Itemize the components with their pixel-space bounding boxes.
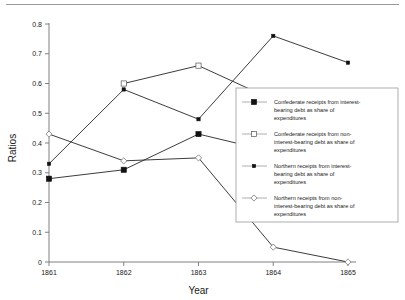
x-tick-label: 1864 — [265, 269, 281, 276]
y-tick-label: 0.7 — [32, 50, 42, 57]
marker-open-diamond — [121, 158, 127, 164]
marker-open-square — [196, 63, 201, 68]
marker-filled-square — [121, 167, 126, 172]
marker-small-filled-square — [346, 61, 349, 64]
y-tick-label: 0.8 — [32, 21, 42, 28]
line-chart: 0.80.70.60.50.40.30.20.10 18611862186318… — [0, 0, 405, 300]
y-tick-label: 0.6 — [32, 80, 42, 87]
y-tick-label: 0.1 — [32, 229, 42, 236]
legend-entry-label: interest-bearing debt as share of — [274, 139, 355, 145]
y-tick-label: 0 — [38, 259, 42, 266]
legend-entry-label: bearing debt as share of — [274, 107, 335, 113]
y-tick-label: 0.3 — [32, 169, 42, 176]
legend-entry-label: interest-bearing debt as share of — [274, 203, 355, 209]
y-tick-label: 0.2 — [32, 199, 42, 206]
y-tick-label: 0.5 — [32, 110, 42, 117]
marker-filled-square — [196, 131, 201, 136]
marker-small-filled-square — [252, 164, 255, 167]
legend-entry-label: expenditures — [274, 211, 306, 217]
y-tick-label: 0.4 — [32, 140, 42, 147]
y-axis-tick-group: 0.80.70.60.50.40.30.20.10 — [32, 21, 49, 266]
marker-small-filled-square — [272, 34, 275, 37]
legend-entry-label: Northern receipts from non- — [274, 195, 343, 201]
x-tick-label: 1863 — [191, 269, 207, 276]
legend-entry-label: bearing debt as share of — [274, 171, 335, 177]
x-tick-label: 1861 — [41, 269, 57, 276]
legend-entry-label: expenditures — [274, 115, 306, 121]
legend-entry-label: Confederate receipts from interest- — [274, 99, 361, 105]
x-axis-tick-group: 18611862186318641865 — [41, 262, 356, 276]
legend-entry-label: Northern receipts from interest- — [274, 163, 352, 169]
chart-legend: Confederate receipts from interest-beari… — [236, 88, 398, 222]
marker-open-diamond — [345, 259, 351, 265]
x-tick-label: 1865 — [340, 269, 356, 276]
marker-open-square — [251, 131, 256, 136]
legend-entry-label: Confederate receipts from non- — [274, 131, 352, 137]
legend-entry-label: expenditures — [274, 147, 306, 153]
marker-small-filled-square — [47, 162, 50, 165]
marker-small-filled-square — [197, 118, 200, 121]
x-tick-label: 1862 — [116, 269, 132, 276]
marker-small-filled-square — [122, 88, 125, 91]
marker-filled-square — [46, 176, 51, 181]
marker-filled-square — [251, 99, 256, 104]
marker-open-diamond — [46, 131, 52, 137]
marker-open-square — [121, 81, 126, 86]
y-axis-title: Ratios — [7, 134, 18, 162]
x-axis-title: Year — [188, 285, 209, 296]
legend-entry-label: expenditures — [274, 179, 306, 185]
chart-svg: 0.80.70.60.50.40.30.20.10 18611862186318… — [0, 0, 405, 300]
